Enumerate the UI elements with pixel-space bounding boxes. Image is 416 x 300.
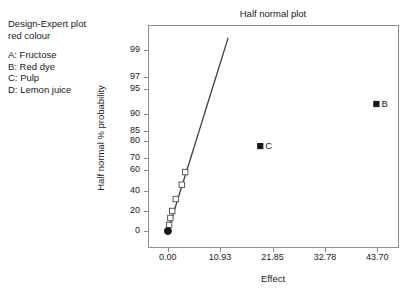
x-tick-label: 10.93	[198, 252, 242, 262]
x-tick-label: 32.78	[303, 252, 347, 262]
x-axis-tick-labels: 0.0010.9321.8532.7843.70	[0, 0, 416, 300]
data-point-label-c: C	[265, 140, 272, 151]
half-normal-plot-figure: Design-Expert plot red colour A: Fructos…	[0, 0, 416, 300]
x-tick-label: 0.00	[146, 252, 190, 262]
x-tick-label: 43.70	[355, 252, 399, 262]
x-tick-label: 21.85	[251, 252, 295, 262]
data-point-label-b: B	[381, 98, 387, 109]
